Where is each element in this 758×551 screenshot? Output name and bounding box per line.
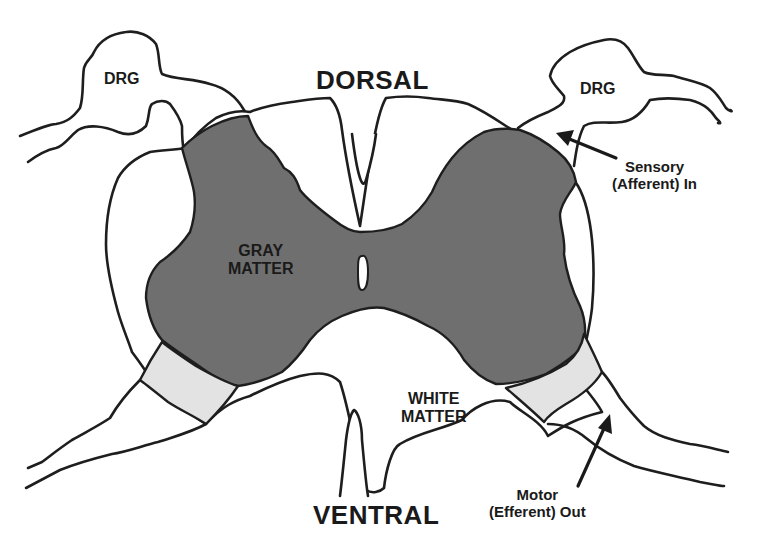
- sensory-label-line1: Sensory: [612, 158, 697, 175]
- sensory-label-line2: (Afferent) In: [612, 175, 697, 192]
- dorsal-label: DORSAL: [316, 66, 429, 96]
- gray-matter-label-line1: GRAY: [228, 242, 293, 260]
- ventral-label: VENTRAL: [313, 501, 439, 531]
- gray-matter-label-line2: MATTER: [228, 260, 293, 278]
- left-drg-label: DRG: [104, 70, 140, 88]
- gray-matter-label: GRAY MATTER: [228, 242, 293, 279]
- right-drg-label: DRG: [580, 80, 616, 98]
- motor-label-line2: (Efferent) Out: [489, 503, 586, 520]
- white-matter-label: WHITE MATTER: [401, 390, 466, 427]
- central-canal: [358, 256, 368, 290]
- motor-efferent-label: Motor (Efferent) Out: [489, 486, 586, 521]
- motor-label-line1: Motor: [489, 486, 586, 503]
- motor-arrow[interactable]: [578, 414, 612, 486]
- sensory-arrow[interactable]: [556, 130, 616, 158]
- white-matter-label-line1: WHITE: [401, 390, 466, 408]
- sensory-afferent-label: Sensory (Afferent) In: [612, 158, 697, 193]
- white-matter-label-line2: MATTER: [401, 408, 466, 426]
